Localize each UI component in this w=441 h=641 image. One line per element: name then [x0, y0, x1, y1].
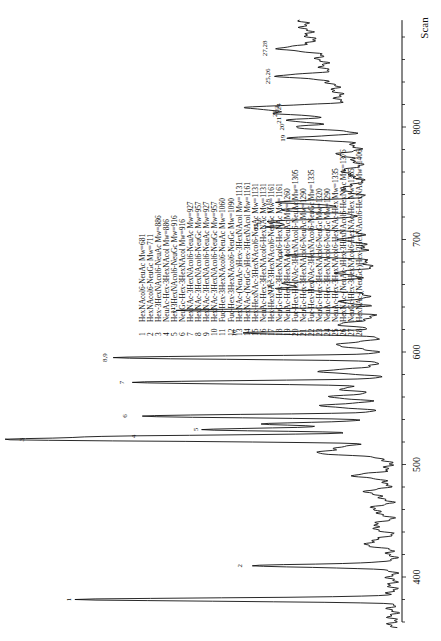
peak-label: 8,9 [101, 353, 109, 362]
peak-label: 4 [130, 434, 138, 438]
legend-text: HexNAc-(NeuGc-)Hex-3HexNAcol6-HexNAc Mw=… [356, 149, 364, 322]
peak-label: 19 [279, 134, 287, 142]
peak-label: 2 [236, 564, 244, 568]
legend-item: 28HexNAc-(NeuGc-)Hex-3HexNAcol6-HexNAc M… [356, 149, 364, 336]
peak-label: 6 [121, 414, 129, 418]
peak-label: 24 [275, 103, 283, 111]
tick-label-700: 700 [411, 232, 422, 247]
tick-label-500: 500 [411, 457, 422, 472]
peak-label: 27,28 [261, 40, 269, 56]
legend-number: 28 [356, 322, 364, 336]
peak-label: 7 [118, 380, 126, 384]
tick-label-800: 800 [411, 120, 422, 135]
peak-label: 25,26 [264, 68, 272, 84]
tick-label-400: 400 [411, 570, 422, 585]
scan-axis: 400500600700800 [402, 20, 422, 622]
tick-label-600: 600 [411, 345, 422, 360]
peak-label: 5 [192, 427, 200, 431]
peak-legend: 1HexNAcol6-NeuAc Mw=6812HexNAcol6-NeuGc … [139, 149, 364, 336]
peak-label: 3 [18, 438, 26, 442]
peak-label: 1 [65, 597, 73, 601]
axis-title: Scan [418, 17, 430, 39]
